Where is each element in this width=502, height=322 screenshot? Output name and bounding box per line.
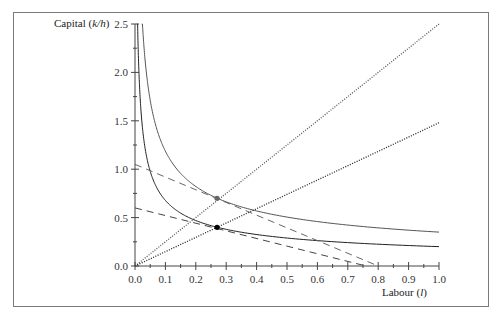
- x-tick-label: 0.6: [311, 273, 325, 285]
- x-tick-label: 1.0: [432, 273, 446, 285]
- ray-steep-line: [135, 24, 439, 266]
- y-tick-label: 1.0: [114, 163, 128, 175]
- y-tick-label: 2.0: [114, 66, 128, 78]
- y-tick-label: 0.5: [114, 212, 128, 224]
- x-tick-label: 0.5: [280, 273, 294, 285]
- y-tick-label: 1.5: [114, 115, 128, 127]
- y-tick-label: 2.5: [114, 18, 128, 30]
- series-layer: [135, 24, 439, 266]
- x-tick-label: 0.9: [402, 273, 416, 285]
- isocost-lower-line: [135, 208, 366, 266]
- x-tick-label: 0.1: [159, 273, 173, 285]
- x-axis-title: Labour (l): [382, 286, 427, 299]
- x-tick-label: 0.8: [371, 273, 385, 285]
- chart-canvas: 0.00.10.20.30.40.50.60.70.80.91.00.00.51…: [0, 0, 502, 322]
- x-tick-label: 0.2: [189, 273, 203, 285]
- x-tick-label: 0.3: [219, 273, 233, 285]
- tangency-upper-point: [214, 196, 219, 201]
- tangency-lower-point: [214, 225, 219, 230]
- isocost-upper-line: [135, 164, 378, 266]
- y-tick-label: 0.0: [114, 260, 128, 272]
- isoquant-lower-line: [137, 24, 439, 247]
- x-tick-label: 0.0: [128, 273, 142, 285]
- x-tick-label: 0.4: [250, 273, 264, 285]
- isoquant-upper-line: [142, 24, 439, 232]
- x-tick-label: 0.7: [341, 273, 355, 285]
- y-axis-title: Capital (k/h): [54, 17, 110, 30]
